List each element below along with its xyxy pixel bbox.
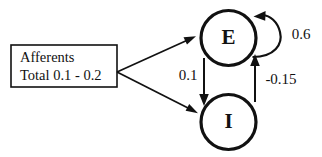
afferents-box-line2: Total 0.1 - 0.2 [20,67,102,83]
edge-afferents-to-i-arrowhead [186,104,198,113]
node-e: E [201,11,256,66]
edge-label-i-to-e: -0.15 [265,71,296,87]
edge-i-to-e [250,54,260,102]
node-e-label: E [221,25,235,49]
node-i-label: I [224,109,232,133]
edge-label-e-to-i: 0.1 [179,67,198,83]
node-i: I [201,95,256,150]
edge-e-to-i [199,58,209,106]
edge-label-e-self: 0.6 [292,26,311,42]
edge-e-self-loop-arrowhead [254,11,266,21]
afferents-input-box: Afferents Total 0.1 - 0.2 [11,45,117,87]
circuit-diagram-svg: Afferents Total 0.1 - 0.2 [0,0,322,157]
diagram-canvas: Afferents Total 0.1 - 0.2 [0,0,322,157]
edge-afferents-to-e-arrowhead [184,36,197,44]
afferents-box-line1: Afferents [20,49,75,65]
